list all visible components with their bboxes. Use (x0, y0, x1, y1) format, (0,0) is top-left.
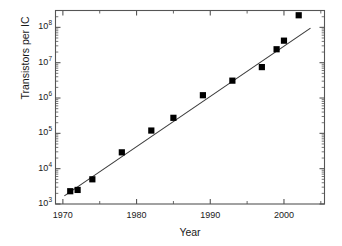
data-point (229, 78, 235, 84)
x-tick-label: 1970 (46, 210, 80, 220)
x-tick-label: 1980 (120, 210, 154, 220)
data-point (119, 149, 125, 155)
data-point (296, 12, 302, 18)
x-axis-minor-ticks (100, 11, 321, 205)
x-axis-major-ticks (63, 11, 284, 205)
data-point (259, 64, 265, 70)
y-tick-label: 103 (22, 198, 52, 208)
data-point (273, 46, 279, 52)
y-axis-title: Transistors per IC (19, 0, 31, 128)
y-axis-major-ticks (56, 27, 325, 204)
data-point (170, 115, 176, 121)
data-point (89, 176, 95, 182)
data-point (281, 38, 287, 44)
x-tick-label: 2000 (267, 210, 301, 220)
x-tick-label: 1990 (193, 210, 227, 220)
x-axis-title: Year (55, 226, 325, 238)
y-tick-label: 105 (22, 127, 52, 137)
y-tick-label: 104 (22, 163, 52, 173)
chart-figure: 108107106105104103 1970198019902000 Tran… (0, 0, 342, 246)
trend-line (64, 28, 310, 196)
data-markers (67, 12, 302, 194)
data-point (75, 187, 81, 193)
data-point (200, 92, 206, 98)
data-point (67, 188, 73, 194)
data-point (148, 127, 154, 133)
